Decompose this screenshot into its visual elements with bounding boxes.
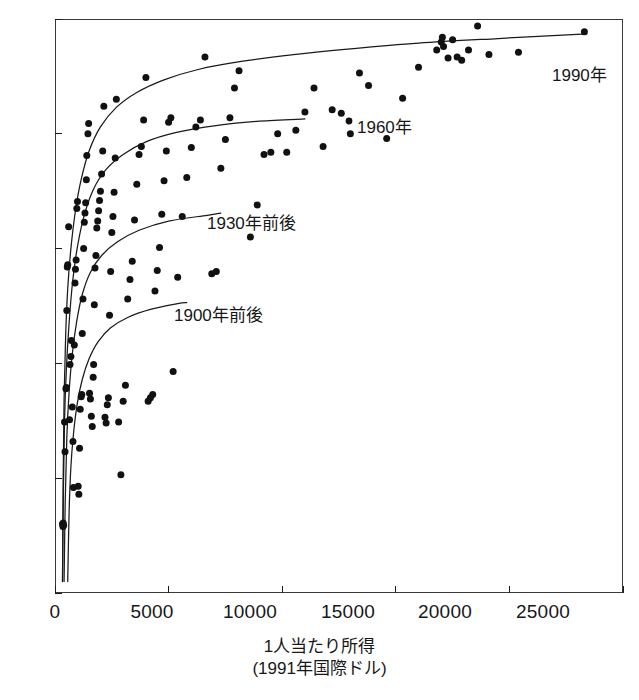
- data-point: [89, 423, 96, 430]
- data-point: [83, 176, 90, 183]
- data-point: [98, 170, 105, 177]
- data-point: [158, 211, 165, 218]
- data-point: [104, 401, 111, 408]
- data-point: [73, 257, 80, 264]
- data-point: [261, 151, 268, 158]
- data-point: [87, 395, 94, 402]
- data-point: [76, 445, 83, 452]
- data-point: [156, 244, 163, 251]
- data-point: [63, 384, 70, 391]
- data-point: [329, 106, 336, 113]
- data-point: [94, 218, 101, 225]
- data-point: [72, 266, 79, 273]
- data-point: [64, 261, 71, 268]
- data-point: [124, 296, 131, 303]
- data-point: [78, 391, 85, 398]
- data-point: [107, 268, 114, 275]
- x-axis-title: 1人当たり所得 (1991年国際ドル): [0, 636, 639, 681]
- data-point: [485, 51, 492, 58]
- data-point: [66, 416, 73, 423]
- data-point: [71, 280, 78, 287]
- curve-label-1930: 1930年前後: [207, 209, 296, 234]
- data-point: [151, 288, 158, 295]
- x-tick-text: 15000: [321, 601, 375, 622]
- data-point: [109, 213, 116, 220]
- data-point: [415, 64, 422, 71]
- curve-1900年前後: [68, 303, 187, 582]
- data-point: [67, 361, 74, 368]
- data-point: [81, 219, 88, 226]
- data-point: [91, 301, 98, 308]
- data-point: [283, 149, 290, 156]
- curve-label-1990: 1990年: [552, 61, 607, 86]
- data-point: [120, 398, 127, 405]
- data-point: [581, 28, 588, 35]
- fitted-curves: [63, 34, 587, 582]
- data-point: [63, 307, 70, 314]
- data-point: [174, 274, 181, 281]
- data-point: [365, 82, 372, 89]
- data-point: [247, 234, 254, 241]
- x-axis-title-main: 1人当たり所得: [0, 636, 639, 658]
- data-point: [131, 216, 138, 223]
- label-leader-lines: [346, 118, 353, 125]
- data-point: [88, 413, 95, 420]
- data-point: [83, 152, 90, 159]
- data-point: [439, 34, 446, 41]
- data-point: [97, 188, 104, 195]
- data-point: [458, 57, 465, 64]
- data-point: [105, 394, 112, 401]
- x-tick-text: 25000: [516, 601, 570, 622]
- data-point: [115, 418, 122, 425]
- curve-label-1960: 1960年: [357, 113, 412, 138]
- data-point: [62, 448, 69, 455]
- label-anchor-dot-1960: [346, 118, 353, 125]
- data-point: [161, 177, 168, 184]
- curve-1990年: [63, 34, 587, 582]
- data-point: [222, 136, 229, 143]
- data-point: [170, 368, 177, 375]
- data-point: [79, 296, 86, 303]
- data-point: [129, 258, 136, 265]
- data-point: [149, 391, 156, 398]
- x-axis-ticks: [55, 586, 623, 593]
- data-point: [85, 120, 92, 127]
- data-point: [74, 198, 81, 205]
- data-point: [81, 210, 88, 217]
- x-tick-text: 0: [50, 601, 61, 622]
- data-point: [126, 276, 133, 283]
- x-tick-text: 10000: [223, 601, 277, 622]
- data-point: [133, 181, 140, 188]
- data-point: [69, 404, 76, 411]
- data-point: [236, 67, 243, 74]
- data-point: [449, 36, 456, 43]
- data-point: [84, 130, 91, 137]
- data-point: [117, 471, 124, 478]
- data-point: [82, 199, 89, 206]
- data-point: [99, 148, 106, 155]
- data-point: [356, 69, 363, 76]
- data-point: [274, 130, 281, 137]
- curve-label-1900: 1900年前後: [174, 301, 263, 326]
- data-point: [106, 312, 113, 319]
- y-axis-ticks: [55, 19, 62, 593]
- x-tick-text: 20000: [418, 601, 472, 622]
- data-point: [75, 483, 82, 490]
- data-point: [445, 55, 452, 62]
- data-point: [112, 154, 119, 161]
- data-point: [301, 108, 308, 115]
- data-point: [347, 130, 354, 137]
- data-point: [95, 207, 102, 214]
- data-point: [465, 47, 472, 54]
- x-axis-title-sub: (1991年国際ドル): [0, 658, 639, 680]
- data-point: [91, 265, 98, 272]
- data-point: [140, 117, 147, 124]
- data-point: [122, 382, 129, 389]
- data-point: [60, 522, 67, 529]
- data-point: [267, 149, 274, 156]
- data-point: [71, 342, 78, 349]
- data-point: [433, 47, 440, 54]
- data-point: [192, 123, 199, 130]
- data-point: [167, 114, 174, 121]
- data-point: [96, 197, 103, 204]
